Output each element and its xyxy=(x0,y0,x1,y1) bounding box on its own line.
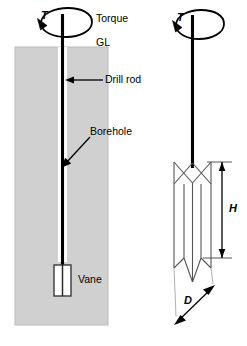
diameter-dimension-label: D xyxy=(184,295,192,306)
vane-bottom-chevron-right xyxy=(201,258,211,268)
vane-blade-top-edge-left xyxy=(174,162,193,183)
torque-rotation-arc-left xyxy=(41,8,92,37)
vane-bottom-chevron-center-left xyxy=(184,258,193,282)
d-extension-tick-left xyxy=(174,268,176,316)
vane-blade-top-edge-inner-left xyxy=(174,163,193,184)
diagram-vector-layer xyxy=(0,0,247,346)
drill-rod-label: Drill rod xyxy=(105,74,141,85)
borehole-label: Borehole xyxy=(90,126,132,137)
d-dimension-arrowhead-lower xyxy=(174,315,186,325)
torque-label-left: Torque xyxy=(96,13,128,24)
vane-bottom-chevron-center-right xyxy=(193,258,202,282)
vane-blade-top-edge-right xyxy=(193,162,212,183)
height-dimension-label: H xyxy=(229,203,237,214)
d-extension-tick-right xyxy=(211,268,213,284)
vane-bottom-chevron-left xyxy=(174,258,184,268)
vane-blade-top-edge-inner-right xyxy=(193,163,212,184)
torque-symbol-left: T xyxy=(41,10,48,21)
d-dimension-arrowhead-upper xyxy=(203,285,215,295)
ground-level-label: GL xyxy=(96,37,110,48)
vane-label: Vane xyxy=(78,274,102,285)
h-dimension-arrowhead-bottom xyxy=(219,249,226,258)
h-dimension-arrowhead-top xyxy=(219,162,226,171)
figure-canvas: T Torque GL Drill rod Borehole Vane T H … xyxy=(0,0,247,346)
torque-symbol-right: T xyxy=(177,12,184,23)
